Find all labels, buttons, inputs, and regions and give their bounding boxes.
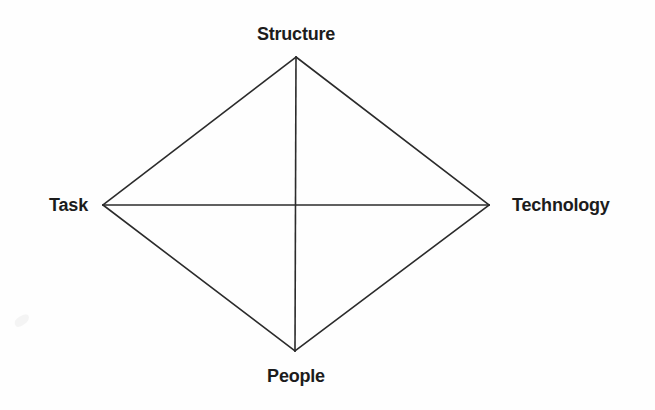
- node-label-people: People: [0, 366, 592, 386]
- node-label-structure: Structure: [0, 24, 592, 44]
- edge-structure-people: [295, 57, 296, 351]
- node-label-technology: Technology: [512, 195, 610, 215]
- edge-technology-people: [296, 57, 489, 205]
- edge-task-structure: [295, 205, 489, 351]
- edge-structure-technology: [103, 57, 296, 205]
- node-label-task: Task: [0, 195, 88, 215]
- edge-people-task: [103, 205, 295, 351]
- leavitt-diamond-diagram: Structure Task Technology People: [0, 0, 655, 410]
